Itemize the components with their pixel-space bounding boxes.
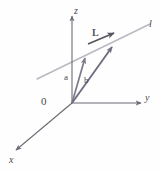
axis-label-x: x xyxy=(9,155,13,165)
vector-label-L: L xyxy=(92,28,99,38)
origin-label: 0 xyxy=(41,96,47,107)
axis-label-y: y xyxy=(145,93,149,103)
vector-b xyxy=(72,47,112,103)
vector-label-b: b xyxy=(84,76,89,85)
axis-x xyxy=(16,103,72,150)
axis-label-z: z xyxy=(74,6,78,16)
diagram-canvas xyxy=(0,0,160,172)
line-label-l: l xyxy=(149,19,152,29)
vector-label-a: a xyxy=(64,73,68,82)
vector-diagram-figure: z y x 0 l L a b xyxy=(0,0,160,172)
